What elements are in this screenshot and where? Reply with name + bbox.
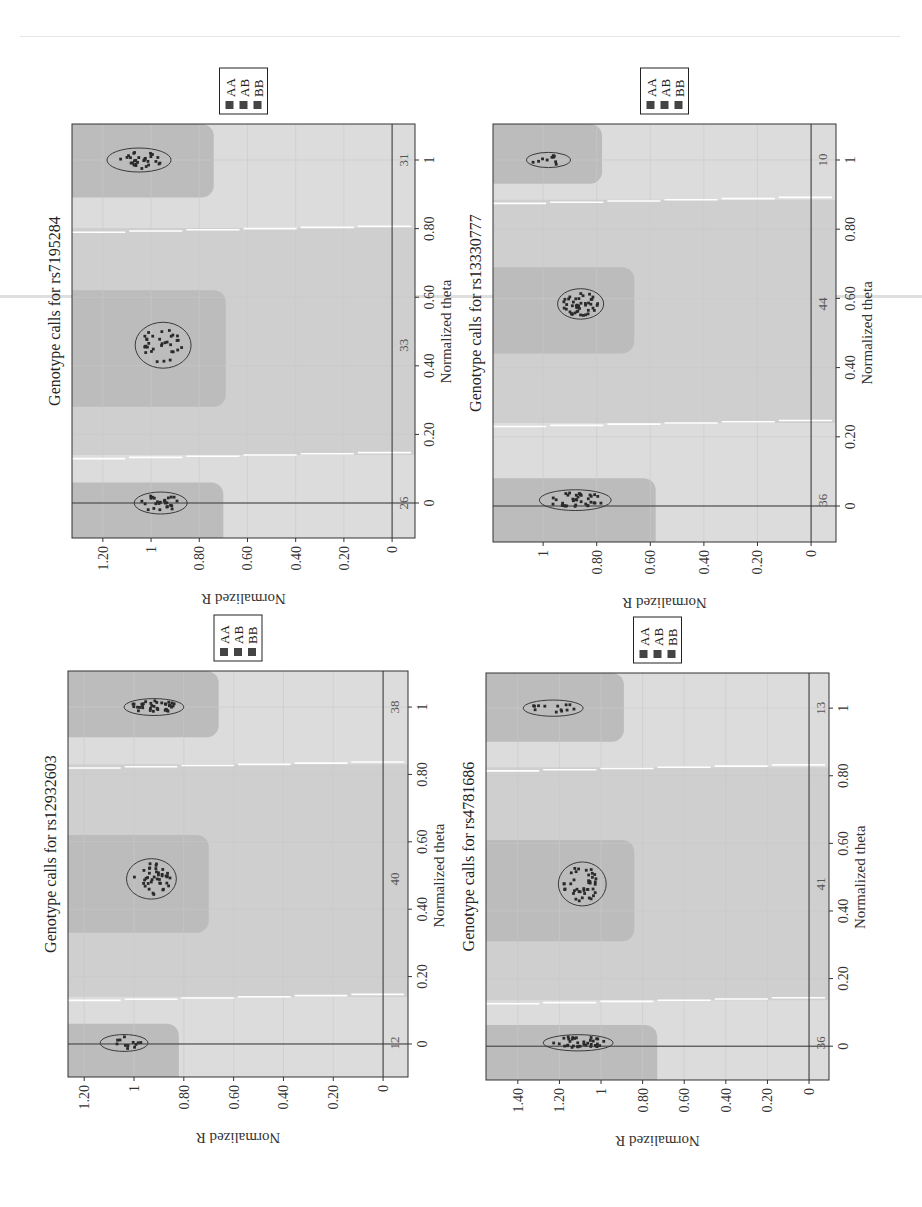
sample-dot: [587, 312, 590, 315]
sample-dot: [147, 508, 150, 511]
sample-dot: [575, 1036, 578, 1039]
sample-dot: [147, 160, 150, 163]
sample-dot: [161, 868, 164, 871]
sample-dot: [143, 879, 146, 882]
sample-dot: [124, 1044, 127, 1047]
sample-dot: [555, 711, 558, 714]
sample-dot: [143, 345, 146, 348]
sample-dot: [163, 360, 166, 363]
y-tick-label: 1.20: [552, 1088, 567, 1113]
legend-swatch-bb: [675, 101, 683, 109]
cluster-count-bb: 38: [387, 701, 402, 714]
sample-dot: [541, 157, 544, 160]
sample-dot: [565, 308, 568, 311]
sample-dot: [137, 156, 140, 159]
sample-dot: [565, 505, 568, 508]
legend-swatch-aa: [640, 650, 648, 658]
sample-dot: [589, 303, 592, 306]
sample-dot: [543, 705, 546, 708]
sample-dot: [576, 310, 579, 313]
sample-dot: [596, 302, 599, 305]
legend-label-bb: BB: [245, 626, 260, 644]
sample-dot: [160, 701, 163, 704]
sample-dot: [579, 493, 582, 496]
sample-dot: [595, 877, 598, 880]
sample-dot: [116, 1039, 119, 1042]
x-tick-label: 0.20: [422, 422, 437, 447]
plot-svg: 26333100.200.400.600.801Normalized theta…: [72, 124, 415, 538]
sample-dot: [140, 167, 143, 170]
sample-dot: [594, 1044, 597, 1047]
y-tick-label: 0.80: [636, 1088, 651, 1113]
y-tick-label: 0.40: [276, 1085, 291, 1110]
y-tick-label: 1.40: [511, 1088, 526, 1113]
sample-dot: [571, 1038, 574, 1041]
sample-dot: [169, 343, 172, 346]
sample-dot: [591, 872, 594, 875]
sample-dot: [148, 867, 151, 870]
sample-dot: [580, 500, 583, 503]
plot-title: Genotype calls for rs12932603: [42, 755, 60, 953]
x-tick-label: 0: [415, 1040, 430, 1047]
sample-dot: [582, 294, 585, 297]
sample-dot: [116, 1042, 119, 1045]
sample-dot: [590, 501, 593, 504]
sample-dot: [552, 503, 555, 506]
sample-dot: [148, 888, 151, 891]
legend-swatch-bb: [254, 101, 262, 109]
sample-dot: [584, 313, 587, 316]
sample-dot: [565, 303, 568, 306]
sample-dot: [172, 705, 175, 708]
sample-dot: [165, 708, 168, 711]
sample-dot: [151, 153, 154, 156]
y-tick-label: 0.20: [750, 550, 765, 575]
sample-dot: [592, 1040, 595, 1043]
sample-dot: [149, 709, 152, 712]
x-tick-label: 1: [836, 705, 851, 712]
sample-dot: [573, 889, 576, 892]
legend-label-aa: AA: [217, 625, 232, 644]
sample-dot: [561, 502, 564, 505]
legend-label-bb: BB: [672, 79, 687, 97]
sample-dot: [166, 501, 169, 504]
sample-dot: [555, 498, 558, 501]
sample-dot: [537, 160, 540, 163]
sample-dot: [593, 493, 596, 496]
sample-dot: [577, 496, 580, 499]
sample-dot: [152, 893, 155, 896]
legend-swatch-aa: [226, 101, 234, 109]
sample-dot: [170, 335, 173, 338]
sample-dot: [147, 331, 150, 334]
sample-dot: [158, 338, 161, 341]
y-tick-label: 0.60: [240, 546, 255, 571]
x-tick-label: 0: [422, 500, 437, 507]
sample-dot: [594, 502, 597, 505]
sample-dot: [572, 499, 575, 502]
sample-dot: [177, 339, 180, 342]
x-tick-label: 0.20: [415, 964, 430, 989]
sample-dot: [140, 500, 143, 503]
sample-dot: [577, 1045, 580, 1048]
sample-dot: [564, 298, 567, 301]
sample-dot: [568, 703, 571, 706]
x-tick-label: 0.20: [836, 966, 851, 991]
y-tick-label: 0.60: [677, 1088, 692, 1113]
cluster-count-ab: 40: [387, 872, 402, 885]
sample-dot: [152, 710, 155, 713]
cluster-region-bb: [481, 124, 602, 184]
sample-dot: [596, 495, 599, 498]
sample-dot: [577, 868, 580, 871]
sample-dot: [170, 496, 173, 499]
legend: AAABBB: [634, 617, 682, 663]
x-tick-label: 1: [422, 157, 437, 164]
sample-dot: [600, 502, 603, 505]
sample-dot: [139, 1041, 142, 1044]
plot-title: Genotype calls for rs13330777: [467, 214, 485, 412]
legend-swatch-ab: [654, 650, 662, 658]
sample-dot: [137, 709, 140, 712]
sample-dot: [160, 330, 163, 333]
sample-dot: [552, 1042, 555, 1045]
sample-dot: [563, 1045, 566, 1048]
sample-dot: [592, 888, 595, 891]
sample-dot: [588, 897, 591, 900]
